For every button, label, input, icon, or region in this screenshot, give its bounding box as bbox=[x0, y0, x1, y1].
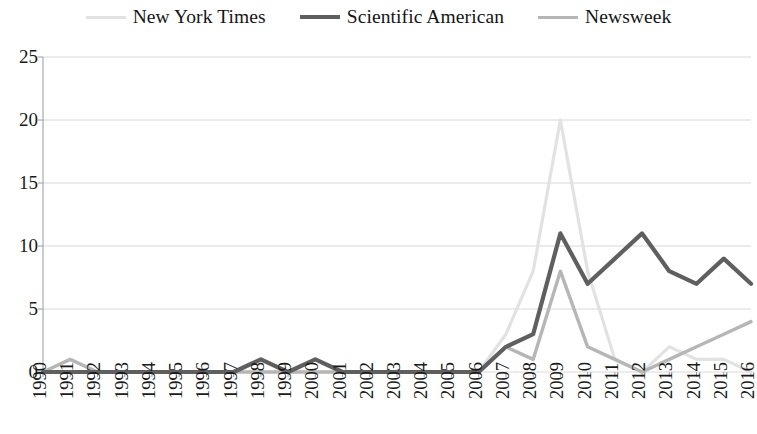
legend-item-scientific-american: Scientific American bbox=[300, 7, 504, 27]
chart-legend: New York Times Scientific American Newsw… bbox=[0, 0, 757, 34]
legend-label-new-york-times: New York Times bbox=[133, 7, 266, 27]
y-tick-label: 25 bbox=[2, 47, 38, 66]
plot-area bbox=[0, 34, 757, 434]
plot-svg bbox=[0, 34, 757, 434]
line-chart: New York Times Scientific American Newsw… bbox=[0, 0, 757, 434]
legend-label-scientific-american: Scientific American bbox=[347, 7, 504, 27]
legend-label-newsweek: Newsweek bbox=[585, 7, 671, 27]
y-tick-label: 5 bbox=[2, 299, 38, 318]
line-swatch-icon bbox=[538, 16, 578, 19]
y-tick-label: 10 bbox=[2, 236, 38, 255]
line-swatch-icon bbox=[86, 16, 126, 19]
legend-item-newsweek: Newsweek bbox=[538, 7, 671, 27]
legend-item-new-york-times: New York Times bbox=[86, 7, 266, 27]
y-axis-tick-labels: 0510152025 bbox=[0, 34, 38, 434]
y-tick-label: 15 bbox=[2, 173, 38, 192]
y-tick-label: 20 bbox=[2, 110, 38, 129]
series-line bbox=[43, 233, 751, 372]
y-tick-label: 0 bbox=[2, 362, 38, 381]
series-line bbox=[43, 271, 751, 372]
line-swatch-icon bbox=[300, 15, 340, 19]
